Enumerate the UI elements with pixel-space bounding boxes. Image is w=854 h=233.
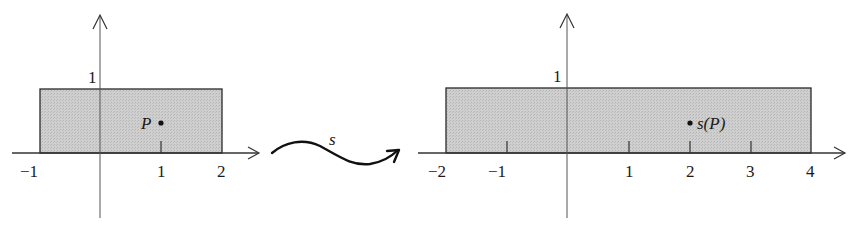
left-y-tick-label: 1: [88, 68, 97, 87]
right-x-tick-label-neg1: −1: [488, 162, 506, 181]
right-y-tick-label: 1: [553, 67, 562, 86]
right-x-tick-label-2: 2: [686, 162, 695, 181]
left-x-tick-label-1: 1: [157, 162, 166, 181]
point-sp-label: s(P): [697, 114, 726, 133]
mapping-arrow: s: [272, 130, 399, 164]
mapping-label: s: [329, 130, 336, 149]
left-region-rect: [40, 89, 222, 153]
point-p-label: P: [140, 114, 151, 133]
right-plot: s(P) 1 −2 −1 1 2 3 4: [418, 14, 845, 218]
right-x-tick-label-1: 1: [625, 162, 634, 181]
right-x-tick-label-neg2: −2: [428, 162, 446, 181]
point-p-dot: [158, 120, 163, 125]
right-x-tick-label-4: 4: [806, 162, 815, 181]
right-x-tick-label-3: 3: [746, 162, 755, 181]
stretch-diagram: P 1 −1 1 2 s s(P) 1 −2 −1 1 2 3 4: [0, 0, 854, 233]
left-x-tick-label-neg1: −1: [20, 162, 38, 181]
left-x-tick-label-2: 2: [217, 162, 226, 181]
point-sp-dot: [687, 120, 692, 125]
left-plot: P 1 −1 1 2: [12, 15, 259, 218]
